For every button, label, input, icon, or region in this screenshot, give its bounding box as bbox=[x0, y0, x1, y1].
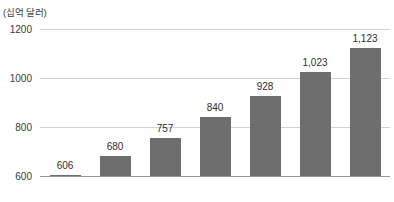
bar-value-label-2022: 840 bbox=[185, 102, 245, 113]
y-axis-unit-label: (십억 달러) bbox=[3, 5, 47, 19]
y-axis-tick-label: 800 bbox=[0, 122, 32, 133]
bar-chart: (십억 달러) 60080010001200606201968020207572… bbox=[0, 0, 394, 202]
plot-area: 6008001000120060620196802020757202184020… bbox=[40, 29, 390, 176]
bar-2021 bbox=[150, 138, 181, 176]
bar-value-label-2024: 1,023 bbox=[285, 57, 345, 68]
bar-value-label-2021: 757 bbox=[135, 123, 195, 134]
bar-2019 bbox=[50, 175, 81, 176]
gridline-600 bbox=[40, 176, 390, 177]
bar-2020 bbox=[100, 156, 131, 176]
y-axis-tick-label: 600 bbox=[0, 171, 32, 182]
bar-2025 bbox=[350, 48, 381, 176]
gridline-1000 bbox=[40, 78, 390, 79]
y-axis-tick-label: 1000 bbox=[0, 73, 32, 84]
bar-2023 bbox=[250, 96, 281, 176]
bar-2024 bbox=[300, 72, 331, 176]
bar-value-label-2020: 680 bbox=[85, 141, 145, 152]
bar-value-label-2025: 1,123 bbox=[335, 33, 394, 44]
bar-value-label-2023: 928 bbox=[235, 81, 295, 92]
bar-value-label-2019: 606 bbox=[35, 160, 95, 171]
gridline-1200 bbox=[40, 29, 390, 30]
bar-2022 bbox=[200, 117, 231, 176]
y-axis-tick-label: 1200 bbox=[0, 24, 32, 35]
